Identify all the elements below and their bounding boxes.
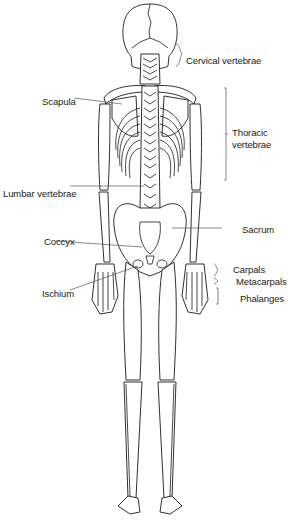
label-cervical-vertebrae: Cervical vertebrae <box>186 55 261 66</box>
label-sacrum: Sacrum <box>242 224 274 235</box>
legs <box>124 262 177 498</box>
label-thoracic-vertebrae-2: vertebrae <box>232 139 271 150</box>
feet <box>118 496 182 514</box>
skeleton-drawing <box>0 0 288 521</box>
pelvis <box>114 204 186 276</box>
skeleton-diagram: Cervical vertebrae Scapula Thoracic vert… <box>0 0 288 521</box>
label-metacarpals: Metacarpals <box>236 276 287 287</box>
label-ischium: Ischium <box>42 288 74 299</box>
label-scapula: Scapula <box>42 96 76 107</box>
spinal-column <box>140 86 160 210</box>
label-lumbar-vertebrae: Lumbar vertebrae <box>3 188 76 199</box>
label-phalanges: Phalanges <box>240 293 284 304</box>
label-thoracic-vertebrae-1: Thoracic <box>232 127 268 138</box>
label-coccyx: Coccyx <box>44 236 75 247</box>
label-carpals: Carpals <box>233 264 265 275</box>
cervical-spine <box>140 54 160 84</box>
